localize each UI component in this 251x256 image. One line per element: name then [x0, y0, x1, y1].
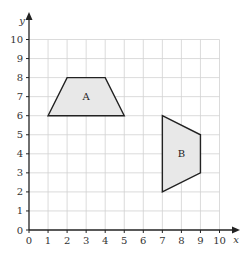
tick-labels: 012345678910012345678910xy: [10, 15, 239, 246]
shape-label-b: B: [178, 148, 185, 159]
y-tick-label: 9: [17, 53, 23, 64]
y-tick-label: 10: [10, 34, 23, 45]
y-tick-label: 3: [17, 167, 23, 178]
x-tick-label: 3: [83, 235, 89, 246]
y-tick-label: 0: [17, 225, 23, 236]
shape-label-a: A: [82, 91, 91, 102]
y-tick-label: 8: [17, 72, 23, 83]
axes: [26, 12, 241, 234]
x-tick-label: 10: [213, 235, 226, 246]
y-axis-title: y: [18, 15, 25, 26]
x-tick-label: 7: [159, 235, 165, 246]
x-tick-label: 4: [102, 235, 108, 246]
x-tick-label: 2: [64, 235, 70, 246]
x-tick-label: 5: [121, 235, 127, 246]
y-tick-label: 1: [17, 205, 23, 216]
y-tick-label: 6: [17, 110, 23, 121]
x-axis-arrow-icon: [232, 227, 240, 234]
coordinate-grid-figure: 012345678910012345678910xy AB: [0, 0, 251, 256]
x-tick-label: 9: [197, 235, 203, 246]
coordinate-plane: 012345678910012345678910xy AB: [0, 0, 251, 256]
y-tick-label: 7: [17, 91, 23, 102]
y-axis-arrow-icon: [26, 12, 33, 20]
x-axis-title: x: [233, 234, 239, 245]
x-tick-label: 0: [26, 235, 32, 246]
y-tick-label: 4: [17, 148, 23, 159]
x-tick-label: 6: [140, 235, 146, 246]
y-tick-label: 2: [17, 186, 23, 197]
x-tick-label: 1: [45, 235, 51, 246]
x-tick-label: 8: [178, 235, 184, 246]
y-tick-label: 5: [17, 129, 23, 140]
